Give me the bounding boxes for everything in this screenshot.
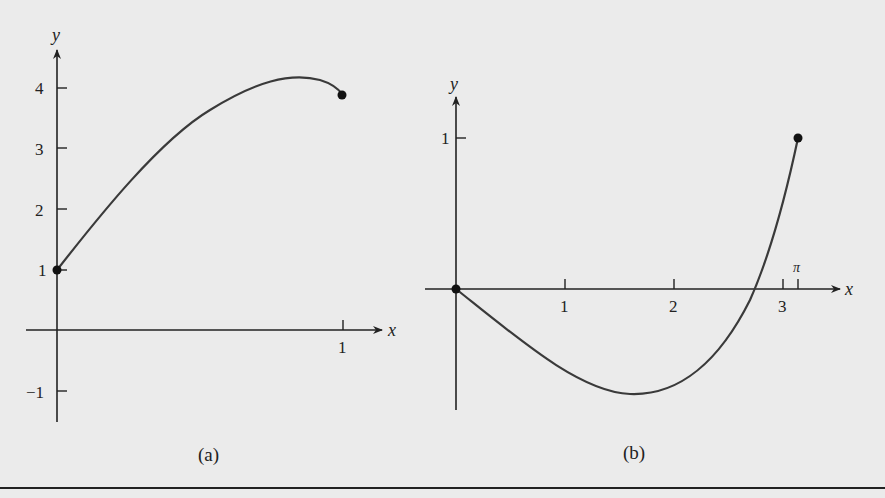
y-axis-label-b: y <box>448 74 458 94</box>
y-ticks-a <box>57 88 67 391</box>
y-tick-label-a-3: 3 <box>35 140 44 159</box>
figure: y x 4 3 2 1 −1 1 (a) y x 1 1 2 3 π <box>0 0 885 498</box>
chart-a: y x 4 3 2 1 −1 1 (a) <box>26 25 396 466</box>
x-tick-label-b-2: 2 <box>669 297 678 316</box>
endpoint-b-start <box>452 285 461 294</box>
y-axis-label-a: y <box>50 25 60 45</box>
curve-a <box>57 77 343 270</box>
chart-b: y x 1 1 2 3 π (b) <box>425 74 853 464</box>
y-tick-label-a-neg1: −1 <box>26 383 44 402</box>
y-tick-label-a-1: 1 <box>38 261 47 280</box>
x-tick-label-b-1: 1 <box>560 297 569 316</box>
y-tick-label-a-4: 4 <box>35 79 44 98</box>
endpoint-a-end <box>338 91 347 100</box>
y-tick-label-a-2: 2 <box>35 201 44 220</box>
y-tick-label-b-1: 1 <box>441 129 450 148</box>
endpoint-b-end <box>794 134 803 143</box>
x-tick-label-a-1: 1 <box>338 338 347 357</box>
x-ticks-b <box>565 279 798 289</box>
x-axis-label-a: x <box>387 320 396 340</box>
endpoint-a-start <box>53 266 62 275</box>
curve-b <box>456 138 798 394</box>
x-axis-label-b: x <box>844 279 853 299</box>
x-tick-label-b-pi: π <box>793 260 801 275</box>
caption-b: (b) <box>623 442 645 464</box>
caption-a: (a) <box>198 444 219 466</box>
x-tick-label-b-3: 3 <box>778 297 787 316</box>
